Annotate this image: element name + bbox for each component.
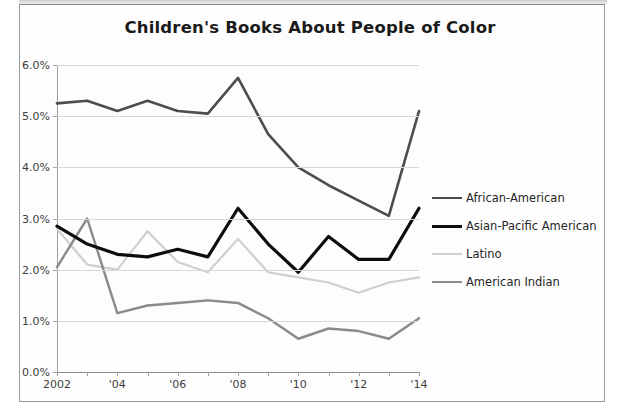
x-axis-tick xyxy=(359,372,360,376)
y-axis-label: 3.0% xyxy=(22,212,50,225)
x-axis-tick xyxy=(87,372,88,376)
y-axis-tick xyxy=(53,270,57,271)
legend-swatch-asian-pacific-american xyxy=(432,225,462,228)
y-axis-label: 0.0% xyxy=(22,366,50,379)
chart-title: Children's Books About People of Color xyxy=(60,18,560,37)
legend-swatch-american-indian xyxy=(432,281,462,283)
y-axis-label: 5.0% xyxy=(22,110,50,123)
x-axis-label: '08 xyxy=(229,378,246,391)
x-axis-tick xyxy=(389,372,390,376)
x-axis-label: '14 xyxy=(410,378,427,391)
legend-label-latino: Latino xyxy=(466,247,501,261)
y-axis-label: 2.0% xyxy=(22,263,50,276)
gridline xyxy=(57,116,419,117)
y-axis-label: 4.0% xyxy=(22,161,50,174)
gridline xyxy=(57,65,419,66)
legend-item-asian-pacific-american: Asian-Pacific American xyxy=(432,212,612,240)
x-axis-tick xyxy=(178,372,179,376)
chart-screenshot: Children's Books About People of Color 0… xyxy=(0,0,621,410)
gridline xyxy=(57,321,419,322)
gridline xyxy=(57,270,419,271)
x-axis-label: '10 xyxy=(290,378,307,391)
plot-area: 0.0%1.0%2.0%3.0%4.0%5.0%6.0%2002'04'06'0… xyxy=(57,65,419,372)
legend-label-african-american: African-American xyxy=(466,191,565,205)
x-axis-tick xyxy=(419,372,420,376)
legend-label-american-indian: American Indian xyxy=(466,275,560,289)
x-axis-label: 2002 xyxy=(43,378,71,391)
legend-item-african-american: African-American xyxy=(432,184,612,212)
x-axis-tick xyxy=(329,372,330,376)
chart-legend: African-American Asian-Pacific American … xyxy=(432,184,612,296)
x-axis-tick xyxy=(298,372,299,376)
y-axis-label: 6.0% xyxy=(22,59,50,72)
x-axis-tick xyxy=(238,372,239,376)
y-axis-label: 1.0% xyxy=(22,314,50,327)
x-axis-label: '06 xyxy=(169,378,186,391)
x-axis-tick xyxy=(148,372,149,376)
y-axis-tick xyxy=(53,65,57,66)
gridline xyxy=(57,167,419,168)
y-axis-tick xyxy=(53,219,57,220)
series-line-african-american xyxy=(57,78,419,216)
legend-swatch-african-american xyxy=(432,197,462,199)
x-axis-tick xyxy=(268,372,269,376)
x-axis-label: '12 xyxy=(350,378,367,391)
legend-label-asian-pacific-american: Asian-Pacific American xyxy=(466,219,596,233)
legend-item-american-indian: American Indian xyxy=(432,268,612,296)
y-axis-tick xyxy=(53,116,57,117)
x-axis-label: '04 xyxy=(109,378,126,391)
x-axis-tick xyxy=(57,372,58,376)
x-axis-tick xyxy=(117,372,118,376)
y-axis-tick xyxy=(53,167,57,168)
x-axis-tick xyxy=(208,372,209,376)
legend-item-latino: Latino xyxy=(432,240,612,268)
y-axis-tick xyxy=(53,321,57,322)
legend-swatch-latino xyxy=(432,253,462,255)
gridline xyxy=(57,219,419,220)
